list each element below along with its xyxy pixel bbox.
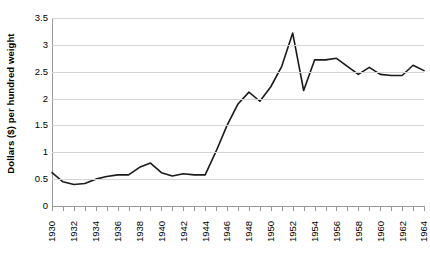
x-axis-tick-label-text: 1942 <box>178 221 189 242</box>
x-axis-tick <box>140 207 141 211</box>
x-axis-tick-label-text: 1954 <box>309 221 320 242</box>
x-axis-tick <box>183 207 184 211</box>
x-axis-tick <box>380 207 381 211</box>
x-axis-tick <box>391 207 392 211</box>
x-axis-tick <box>424 207 425 211</box>
data-line-series <box>52 18 424 206</box>
x-axis-tick-label-text: 1956 <box>331 221 342 242</box>
x-axis-tick <box>194 207 195 211</box>
series-price-polyline <box>52 33 424 184</box>
x-axis-tick <box>85 207 86 211</box>
y-axis-tick-label: 3 <box>20 40 48 50</box>
x-axis-tick-label: 1960 <box>374 212 386 258</box>
x-axis-tick-label-text: 1950 <box>265 221 276 242</box>
x-axis-tick <box>118 207 119 211</box>
x-axis-tick-label-text: 1936 <box>112 221 123 242</box>
x-axis-tick <box>260 207 261 211</box>
x-axis-tick <box>52 207 53 211</box>
gridline <box>52 72 424 73</box>
y-axis-tick-label: 0 <box>20 201 48 211</box>
x-axis-tick <box>304 207 305 211</box>
x-axis-tick-label: 1940 <box>155 212 167 258</box>
x-axis-tick <box>347 207 348 211</box>
x-axis-tick <box>129 207 130 211</box>
x-axis-tick-label-text: 1952 <box>287 221 298 242</box>
x-axis-tick-label-text: 1964 <box>419 221 430 242</box>
x-axis-tick <box>293 207 294 211</box>
x-axis-tick-label: 1958 <box>352 212 364 258</box>
gridline <box>52 99 424 100</box>
x-axis-tick <box>326 207 327 211</box>
x-axis-tick-label: 1930 <box>46 212 58 258</box>
x-axis-tick <box>358 207 359 211</box>
x-axis-tick-label-text: 1938 <box>134 221 145 242</box>
x-axis-tick-label: 1952 <box>287 212 299 258</box>
gridline <box>52 179 424 180</box>
x-axis-tick <box>107 207 108 211</box>
y-axis-tick-label: 1 <box>20 148 48 158</box>
x-axis-tick-label-text: 1948 <box>243 221 254 242</box>
x-axis-tick <box>96 207 97 211</box>
x-axis-tick <box>336 207 337 211</box>
x-axis-tick <box>402 207 403 211</box>
x-axis-tick-label-text: 1960 <box>375 221 386 242</box>
x-axis-tick <box>161 207 162 211</box>
x-axis-tick-label: 1948 <box>243 212 255 258</box>
x-axis-tick-label: 1944 <box>199 212 211 258</box>
x-axis-tick-label: 1954 <box>309 212 321 258</box>
x-axis-tick <box>227 207 228 211</box>
x-axis-tick-label-text: 1940 <box>156 221 167 242</box>
x-axis-tick <box>172 207 173 211</box>
x-axis-tick <box>63 207 64 211</box>
x-axis-tick <box>74 207 75 211</box>
x-axis-tick-label: 1962 <box>396 212 408 258</box>
x-axis-tick-labels: 1930193219341936193819401942194419461948… <box>52 212 425 261</box>
y-axis-title-text: Dollars ($) per hundred weight <box>5 33 16 173</box>
x-axis-tick-label: 1946 <box>221 212 233 258</box>
x-axis-tick <box>238 207 239 211</box>
x-axis-tick <box>150 207 151 211</box>
y-axis-tick-label: 1.5 <box>20 121 48 131</box>
y-axis-title: Dollars ($) per hundred weight <box>0 0 20 207</box>
gridline <box>52 18 424 19</box>
x-axis-tick <box>249 207 250 211</box>
y-axis-tick-label: 2.5 <box>20 67 48 77</box>
x-axis-tick-label: 1934 <box>90 212 102 258</box>
gridline <box>52 45 424 46</box>
x-axis-tick-label-text: 1962 <box>397 221 408 242</box>
x-axis-tick <box>216 207 217 211</box>
y-axis-tick-label: 3.5 <box>20 13 48 23</box>
x-axis-tick-label-text: 1958 <box>353 221 364 242</box>
x-axis-tick-label-text: 1946 <box>222 221 233 242</box>
y-axis-tick-label: 2 <box>20 94 48 104</box>
x-axis-tick <box>369 207 370 211</box>
gridline <box>52 125 424 126</box>
x-axis-tick-label: 1938 <box>134 212 146 258</box>
x-axis-tick <box>205 207 206 211</box>
x-axis-tick-label: 1936 <box>112 212 124 258</box>
x-axis-tick <box>413 207 414 211</box>
x-axis-tick-label-text: 1930 <box>47 221 58 242</box>
y-axis-tick-labels: 00.511.522.533.5 <box>20 0 48 261</box>
x-axis-tick-label: 1956 <box>330 212 342 258</box>
x-axis-tick-label: 1964 <box>418 212 430 258</box>
x-axis-tick <box>315 207 316 211</box>
line-chart: Dollars ($) per hundred weight 00.511.52… <box>0 0 430 261</box>
x-axis-tick <box>282 207 283 211</box>
gridline <box>52 152 424 153</box>
x-axis-tick-label-text: 1944 <box>200 221 211 242</box>
plot-area <box>52 18 424 206</box>
x-axis-tick-label: 1942 <box>177 212 189 258</box>
x-axis-tick <box>271 207 272 211</box>
x-axis-tick-label-text: 1932 <box>68 221 79 242</box>
x-axis-tick-label: 1950 <box>265 212 277 258</box>
x-axis-tick-label: 1932 <box>68 212 80 258</box>
x-axis-tick-label-text: 1934 <box>90 221 101 242</box>
y-axis-tick-label: 0.5 <box>20 174 48 184</box>
